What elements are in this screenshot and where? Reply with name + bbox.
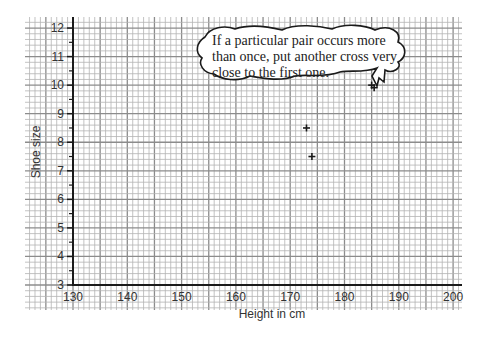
y-tick-label: 5 <box>57 221 64 235</box>
x-tick-label: 140 <box>117 290 137 304</box>
x-tick-label: 130 <box>63 290 83 304</box>
data-point-cross <box>308 153 315 160</box>
y-tick-label: 9 <box>57 107 64 121</box>
y-tick-label: 12 <box>51 21 65 35</box>
y-tick-label: 10 <box>51 78 65 92</box>
scatter-chart: 3456789101112 130140150160170180190200 H… <box>0 0 489 352</box>
bubble-line-3: close to the first one. <box>212 65 329 80</box>
y-tick-label: 11 <box>52 50 65 64</box>
bubble-line-1: If a particular pair occurs more <box>212 33 386 48</box>
x-tick-label: 180 <box>334 290 354 304</box>
x-tick-label: 200 <box>443 290 463 304</box>
data-point-cross <box>303 124 310 131</box>
x-tick-label: 160 <box>226 290 246 304</box>
bubble-line-2: than once, put another cross very <box>212 49 397 64</box>
speech-bubble: If a particular pair occurs more than on… <box>197 25 404 86</box>
x-tick-label: 190 <box>389 290 409 304</box>
y-tick-label: 4 <box>57 249 64 263</box>
x-tick-label: 170 <box>280 290 300 304</box>
y-tick-label: 6 <box>57 192 64 206</box>
x-tick-label: 150 <box>172 290 192 304</box>
x-axis-title: Height in cm <box>239 307 306 321</box>
y-tick-label: 8 <box>57 135 64 149</box>
y-tick-label: 7 <box>57 164 64 178</box>
y-axis-title: Shoe size <box>29 125 43 178</box>
